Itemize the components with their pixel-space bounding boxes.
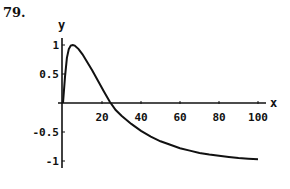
y-tick-label: -1 [46, 155, 60, 168]
x-tick-label: 60 [173, 111, 186, 124]
x-tick-label: 80 [212, 111, 225, 124]
chart: xy 2040608010010.5-0.5-1 [0, 0, 290, 189]
y-tick-label: -0.5 [33, 126, 60, 139]
x-tick-label: 40 [134, 111, 147, 124]
x-axis-label: x [270, 96, 277, 110]
y-tick-label: 1 [52, 39, 59, 52]
axes: xy [58, 18, 277, 168]
y-axis-label: y [58, 18, 65, 32]
x-tick-label: 100 [248, 111, 268, 124]
x-tick-label: 20 [95, 111, 108, 124]
data-curve [63, 45, 258, 159]
y-tick-label: 0.5 [39, 68, 59, 81]
